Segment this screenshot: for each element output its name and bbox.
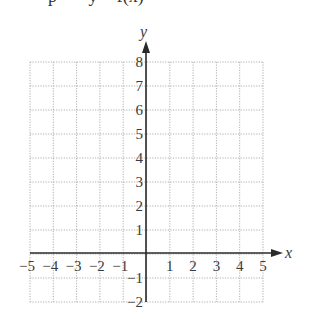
y-tick-label: 4: [136, 150, 144, 166]
y-tick-label: 7: [136, 78, 144, 94]
x-tick-label: −5: [19, 258, 35, 274]
x-tick-label: 5: [259, 258, 267, 274]
y-axis-arrow-icon: [142, 41, 150, 53]
y-tick-label: −2: [127, 294, 143, 310]
x-tick-label: 2: [189, 258, 197, 274]
coordinate-grid-chart: x y −5−4−3−2−112345 −2−112345678: [0, 0, 312, 319]
x-tick-label: −3: [66, 258, 82, 274]
y-tick-label: 3: [136, 174, 144, 190]
y-tick-label: 2: [136, 198, 144, 214]
x-tick-label: 4: [236, 258, 244, 274]
y-axis-label: y: [138, 23, 148, 41]
y-tick-label: 8: [136, 54, 144, 70]
x-tick-label: −1: [112, 258, 128, 274]
y-tick-label: 5: [136, 126, 144, 142]
y-tick-label: −1: [127, 270, 143, 286]
x-tick-label: 3: [213, 258, 221, 274]
x-axis-arrow-icon: [271, 249, 283, 257]
y-tick-label: 1: [136, 222, 144, 238]
x-tick-label: −4: [42, 258, 58, 274]
x-tick-label: 1: [166, 258, 174, 274]
x-tick-label: −2: [89, 258, 105, 274]
y-tick-label: 6: [136, 102, 144, 118]
x-axis-label: x: [284, 244, 292, 261]
